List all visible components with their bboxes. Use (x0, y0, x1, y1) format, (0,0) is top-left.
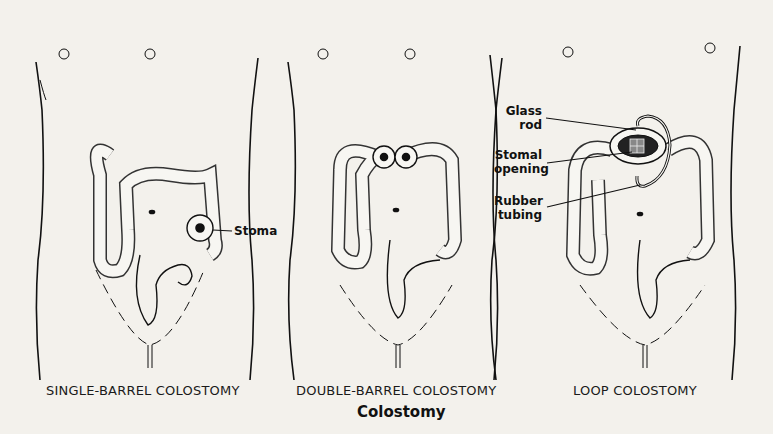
glass-rod-label: Glass rod (494, 104, 542, 132)
stomal-opening-label: Stomal opening (494, 148, 542, 176)
stomal-opening-label-line2: opening (494, 162, 542, 176)
caption-single-barrel: SINGLE-BARREL COLOSTOMY (46, 383, 240, 398)
colostomy-figure: Stoma Glass rod Stomal opening Rubber tu… (0, 0, 773, 434)
glass-rod-label-line2: rod (494, 118, 542, 132)
stoma-label: Stoma (234, 224, 277, 238)
caption-double-barrel: DOUBLE-BARREL COLOSTOMY (296, 383, 496, 398)
illustration (0, 0, 773, 434)
rubber-tubing-label-line1: Rubber (494, 194, 542, 208)
rubber-tubing-label: Rubber tubing (494, 194, 542, 222)
caption-loop: LOOP COLOSTOMY (573, 383, 697, 398)
rubber-tubing-label-line2: tubing (494, 208, 542, 222)
panel-single-barrel-drawing (36, 49, 258, 380)
stomal-opening-label-line1: Stomal (494, 148, 542, 162)
glass-rod-label-line1: Glass (494, 104, 542, 118)
figure-title: Colostomy (357, 403, 446, 421)
panel-double-barrel-drawing (288, 49, 502, 380)
